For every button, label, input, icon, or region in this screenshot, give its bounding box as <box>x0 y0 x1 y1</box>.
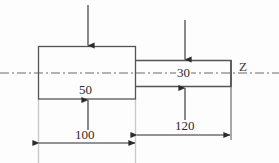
drawing-vector-layer <box>0 0 279 163</box>
technical-drawing-canvas: 50 30 100 120 Z <box>0 0 279 163</box>
dimension-label-50: 50 <box>79 83 92 96</box>
axis-label-z: Z <box>239 60 247 73</box>
dimension-label-120: 120 <box>175 119 195 132</box>
dimension-label-30: 30 <box>176 66 191 79</box>
dimension-label-100: 100 <box>75 128 95 141</box>
